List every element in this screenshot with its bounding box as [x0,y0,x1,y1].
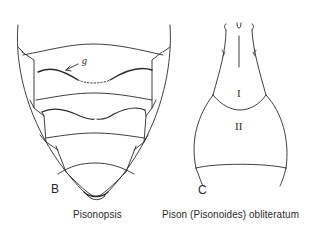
panel-b-drawing [17,25,170,200]
illustration-svg [0,0,325,231]
figure-canvas: g B C I II Pisonopsis Pison (Pisonoides)… [0,0,325,231]
panel-letter-c: C [198,183,207,197]
panel-letter-b: B [51,182,59,196]
segment-label-ii: II [235,120,242,132]
segment-label-i: I [237,87,241,99]
annotation-g: g [82,55,87,66]
panel-c-drawing [194,23,287,186]
caption-pisonopsis: Pisonopsis [73,208,122,220]
caption-pison-obliteratum: Pison (Pisonoides) obliteratum [162,208,299,220]
